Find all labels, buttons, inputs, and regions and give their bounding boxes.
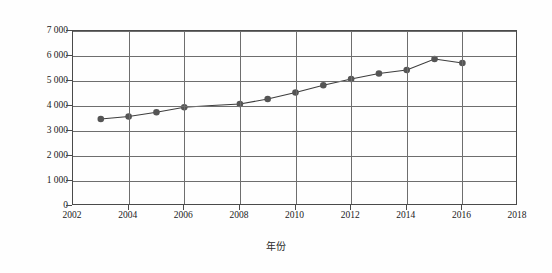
x-tick-label: 2012 (328, 210, 372, 220)
x-tick-mark (350, 205, 351, 210)
x-axis-title: 年份 (0, 238, 552, 253)
x-tick-mark (239, 205, 240, 210)
x-tick-label: 2018 (495, 210, 539, 220)
y-tick-mark (66, 105, 72, 106)
x-tick-mark (295, 205, 296, 210)
x-tick-mark (461, 205, 462, 210)
y-tick-mark (66, 180, 72, 181)
y-tick-mark (66, 55, 72, 56)
x-tick-label: 2016 (439, 210, 483, 220)
y-tick-mark (66, 30, 72, 31)
x-tick-mark (183, 205, 184, 210)
x-tick-mark (128, 205, 129, 210)
x-tick-label: 2014 (384, 210, 428, 220)
x-tick-label: 2008 (217, 210, 261, 220)
y-tick-mark (66, 130, 72, 131)
chart-figure: 黄瓜总产量（万吨） 01 0002 0003 0004 0005 0006 00… (0, 0, 552, 273)
y-tick-mark (66, 155, 72, 156)
x-tick-label: 2004 (106, 210, 150, 220)
x-axis-tick-labels: 200220042006200820102012201420162018 (0, 0, 552, 273)
x-tick-label: 2006 (161, 210, 205, 220)
x-tick-mark (406, 205, 407, 210)
y-tick-mark (66, 80, 72, 81)
y-tick-mark (66, 205, 72, 206)
x-tick-label: 2002 (50, 210, 94, 220)
x-tick-label: 2010 (273, 210, 317, 220)
